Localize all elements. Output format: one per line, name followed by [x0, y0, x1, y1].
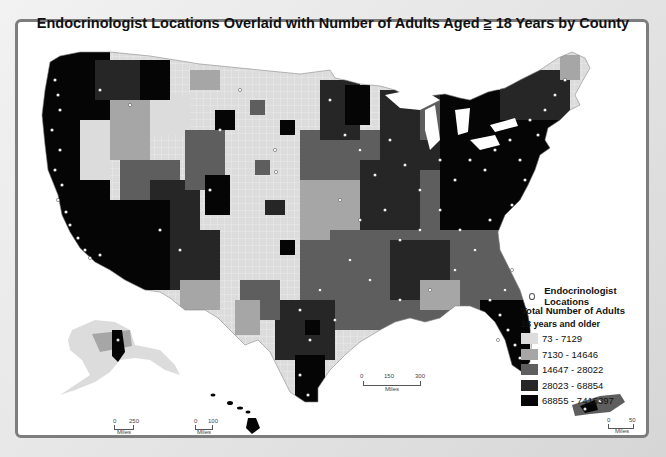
legend-class-1: 73 - 7129	[521, 331, 646, 347]
swatch-icon	[521, 349, 538, 360]
swatch-icon	[521, 364, 538, 375]
scale-bar-conus: 0 150 300 Miles	[361, 374, 421, 394]
endocrinologist-point-icon	[529, 293, 535, 300]
swatch-icon	[521, 395, 538, 406]
scale-bar-hawaii: 0 100 Miles	[194, 418, 219, 436]
scale-bar-puerto-rico: 0 50 Miles	[607, 417, 637, 435]
map-legend: Endocrinologist Locations Total Number o…	[521, 289, 646, 409]
legend-subheading: 18 years and older	[521, 318, 646, 331]
legend-class-2: 7130 - 14646	[521, 347, 646, 363]
swatch-icon	[521, 380, 538, 391]
legend-class-5: 68855 - 7416397	[521, 393, 646, 409]
legend-point-entry: Endocrinologist Locations	[529, 289, 646, 303]
scale-bar-alaska: 0 250 Miles	[113, 418, 138, 436]
legend-class-3: 14647 - 28022	[521, 362, 646, 378]
legend-class-4: 28023 - 68854	[521, 378, 646, 394]
swatch-icon	[521, 333, 538, 344]
